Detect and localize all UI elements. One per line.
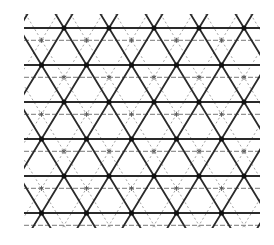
dashed-diagonal-line <box>0 14 12 228</box>
dashed-diagonal-line <box>206 14 274 228</box>
lattice-node <box>174 136 179 141</box>
lattice-node <box>106 25 111 30</box>
lattice-node <box>174 210 179 215</box>
dashed-diagonal-line <box>116 14 246 228</box>
lattice-node <box>39 62 44 67</box>
dashed-diagonal-line <box>197 14 274 228</box>
solid-diagonal-line <box>0 14 6 228</box>
lattice-node <box>241 173 246 178</box>
dashed-diagonal-line <box>0 14 66 228</box>
lattice-node <box>196 25 201 30</box>
lattice-node <box>151 25 156 30</box>
lattice-node <box>129 136 134 141</box>
primary-solid-lattice <box>0 14 274 228</box>
dashed-diagonal-line <box>71 14 201 228</box>
lattice-node <box>61 99 66 104</box>
dashed-diagonal-line <box>0 14 21 228</box>
lattice-node <box>174 62 179 67</box>
solid-diagonal-line <box>0 14 51 228</box>
lattice-node <box>39 136 44 141</box>
lattice-node <box>151 173 156 178</box>
lattice-node <box>219 62 224 67</box>
solid-diagonal-line <box>0 14 73 228</box>
lattice-node <box>106 173 111 178</box>
lattice-node <box>129 210 134 215</box>
lattice-node <box>241 99 246 104</box>
lattice-node <box>241 25 246 30</box>
lattice-node <box>196 173 201 178</box>
solid-diagonal-line <box>212 14 274 228</box>
dashed-diagonal-line <box>242 14 274 228</box>
dashed-diagonal-line <box>0 14 111 228</box>
dashed-diagonal-line <box>17 14 147 228</box>
lattice-node <box>219 136 224 141</box>
lattice-node <box>39 210 44 215</box>
lattice-node <box>129 62 134 67</box>
lattice-node <box>84 210 89 215</box>
lattice-node <box>61 25 66 30</box>
lattice-node <box>106 99 111 104</box>
solid-diagonal-line <box>167 14 274 228</box>
lattice-node <box>84 62 89 67</box>
dashed-diagonal-line <box>107 14 237 228</box>
lattice-node <box>61 173 66 178</box>
solid-diagonal-line <box>0 14 118 228</box>
solid-diagonal-line <box>0 14 96 228</box>
lattice-node <box>84 136 89 141</box>
dashed-diagonal-line <box>26 14 156 228</box>
solid-diagonal-line <box>257 14 274 228</box>
dashed-diagonal-line <box>0 14 57 228</box>
lattice-node <box>219 210 224 215</box>
solid-diagonal-line <box>0 14 28 228</box>
lattice-node <box>151 99 156 104</box>
triangular-lattice-diagram <box>0 0 274 245</box>
dashed-diagonal-line <box>62 14 192 228</box>
lattice-node <box>196 99 201 104</box>
